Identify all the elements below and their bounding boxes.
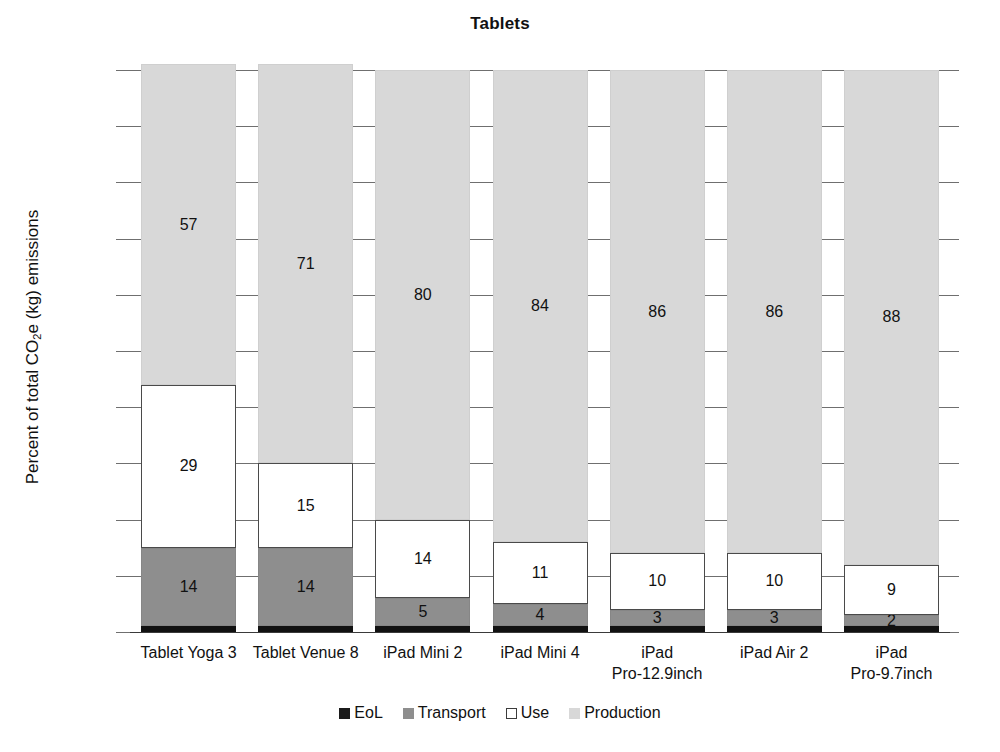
x-axis-label: Tablet Yoga 3: [124, 642, 254, 663]
bar-segment-value: 14: [414, 551, 432, 567]
bar-segment-value: 80: [414, 287, 432, 303]
bar-segment-eol[interactable]: [844, 626, 939, 632]
y-tick-mark-30: [116, 463, 130, 464]
y-tick-mark-right-90: [950, 126, 959, 127]
y-tick-mark-right-0: [950, 632, 959, 633]
x-axis-label: iPad Mini 2: [358, 642, 488, 663]
bar-segment-production[interactable]: 88: [844, 70, 939, 565]
bar-segment-value: 3: [653, 610, 662, 626]
y-axis-title: Percent of total CO2e (kg) emissions: [23, 87, 43, 607]
legend-swatch-production-icon: [569, 708, 580, 719]
bars-layer: 142957141571514804118431086310862988: [130, 70, 950, 632]
bar-group[interactable]: 141571: [258, 70, 353, 632]
bar-segment-use[interactable]: 29: [141, 385, 236, 548]
bar-segment-value: 10: [648, 573, 666, 589]
legend-label: EoL: [354, 704, 382, 722]
x-axis-label-line: iPad: [592, 642, 722, 663]
bar-segment-use[interactable]: 9: [844, 565, 939, 616]
x-axis-label-line: Tablet Yoga 3: [124, 642, 254, 663]
x-axis-label-line: iPad Air 2: [709, 642, 839, 663]
bar-segment-value: 71: [297, 256, 315, 272]
bar-segment-value: 2: [887, 613, 896, 629]
legend-item-use[interactable]: Use: [506, 704, 549, 722]
bar-segment-use[interactable]: 10: [727, 553, 822, 609]
legend-item-transport[interactable]: Transport: [403, 704, 486, 722]
bar-segment-transport[interactable]: 5: [375, 598, 470, 626]
bar-group[interactable]: 41184: [493, 70, 588, 632]
bar-segment-transport[interactable]: 14: [141, 548, 236, 627]
legend-label: Production: [584, 704, 661, 722]
y-tick-mark-100: [116, 70, 130, 71]
bar-group[interactable]: 142957: [141, 70, 236, 632]
bar-segment-production[interactable]: 71: [258, 64, 353, 463]
y-tick-mark-right-70: [950, 239, 959, 240]
bar-segment-value: 4: [536, 607, 545, 623]
x-axis-label: iPad Air 2: [709, 642, 839, 663]
x-axis-labels: Tablet Yoga 3Tablet Venue 8iPad Mini 2iP…: [130, 642, 950, 698]
gridline-0: [130, 632, 950, 633]
bar-group[interactable]: 2988: [844, 70, 939, 632]
chart-legend: EoLTransportUseProduction: [0, 704, 1000, 722]
x-axis-label-line: Tablet Venue 8: [241, 642, 371, 663]
plot-area: 100%90%80%70%60%50%40%30%20%10%0% 142957…: [130, 70, 950, 632]
y-tick-mark-90: [116, 126, 130, 127]
bar-segment-production[interactable]: 86: [610, 70, 705, 553]
y-tick-mark-10: [116, 576, 130, 577]
bar-segment-eol[interactable]: [141, 626, 236, 632]
bar-segment-eol[interactable]: [375, 626, 470, 632]
y-axis-title-prefix: Percent of total CO: [23, 340, 42, 485]
bar-segment-transport[interactable]: 14: [258, 548, 353, 627]
bar-segment-value: 29: [180, 458, 198, 474]
legend-label: Use: [521, 704, 549, 722]
chart-container: Tablets Percent of total CO2e (kg) emiss…: [0, 0, 1000, 752]
x-axis-label-line: Pro-9.7inch: [826, 663, 956, 684]
bar-segment-use[interactable]: 11: [493, 542, 588, 604]
bar-segment-transport[interactable]: 4: [493, 604, 588, 626]
bar-segment-transport[interactable]: 2: [844, 615, 939, 626]
y-tick-mark-right-10: [950, 576, 959, 577]
bar-segment-value: 86: [648, 304, 666, 320]
y-tick-mark-right-50: [950, 351, 959, 352]
bar-group[interactable]: 31086: [727, 70, 822, 632]
bar-segment-production[interactable]: 80: [375, 70, 470, 520]
legend-swatch-use-icon: [506, 708, 517, 719]
bar-segment-transport[interactable]: 3: [727, 610, 822, 627]
y-tick-mark-right-40: [950, 407, 959, 408]
bar-segment-use[interactable]: 15: [258, 463, 353, 547]
y-tick-mark-right-30: [950, 463, 959, 464]
bar-segment-value: 5: [418, 604, 427, 620]
bar-segment-value: 10: [765, 573, 783, 589]
bar-segment-production[interactable]: 84: [493, 70, 588, 542]
bar-segment-value: 86: [765, 304, 783, 320]
bar-segment-value: 14: [180, 579, 198, 595]
bar-segment-production[interactable]: 86: [727, 70, 822, 553]
y-tick-mark-50: [116, 351, 130, 352]
bar-segment-eol[interactable]: [610, 626, 705, 632]
y-axis-title-suffix: e (kg) emissions: [23, 210, 42, 334]
legend-label: Transport: [418, 704, 486, 722]
y-tick-mark-right-80: [950, 182, 959, 183]
y-tick-mark-0: [116, 632, 130, 633]
bar-segment-transport[interactable]: 3: [610, 610, 705, 627]
legend-swatch-eol-icon: [339, 708, 350, 719]
bar-segment-production[interactable]: 57: [141, 64, 236, 384]
bar-segment-eol[interactable]: [727, 626, 822, 632]
y-tick-mark-right-60: [950, 295, 959, 296]
x-axis-label: Tablet Venue 8: [241, 642, 371, 663]
bar-segment-use[interactable]: 10: [610, 553, 705, 609]
y-tick-mark-80: [116, 182, 130, 183]
legend-item-eol[interactable]: EoL: [339, 704, 382, 722]
x-axis-label: iPad Mini 4: [475, 642, 605, 663]
legend-item-production[interactable]: Production: [569, 704, 661, 722]
bar-segment-use[interactable]: 14: [375, 520, 470, 599]
bar-segment-eol[interactable]: [258, 626, 353, 632]
y-tick-mark-70: [116, 239, 130, 240]
y-axis-title-subscript: 2: [31, 334, 43, 340]
y-tick-mark-20: [116, 520, 130, 521]
bar-group[interactable]: 51480: [375, 70, 470, 632]
bar-segment-value: 88: [883, 309, 901, 325]
x-axis-label-line: iPad Mini 2: [358, 642, 488, 663]
bar-segment-value: 14: [297, 579, 315, 595]
bar-group[interactable]: 31086: [610, 70, 705, 632]
bar-segment-eol[interactable]: [493, 626, 588, 632]
